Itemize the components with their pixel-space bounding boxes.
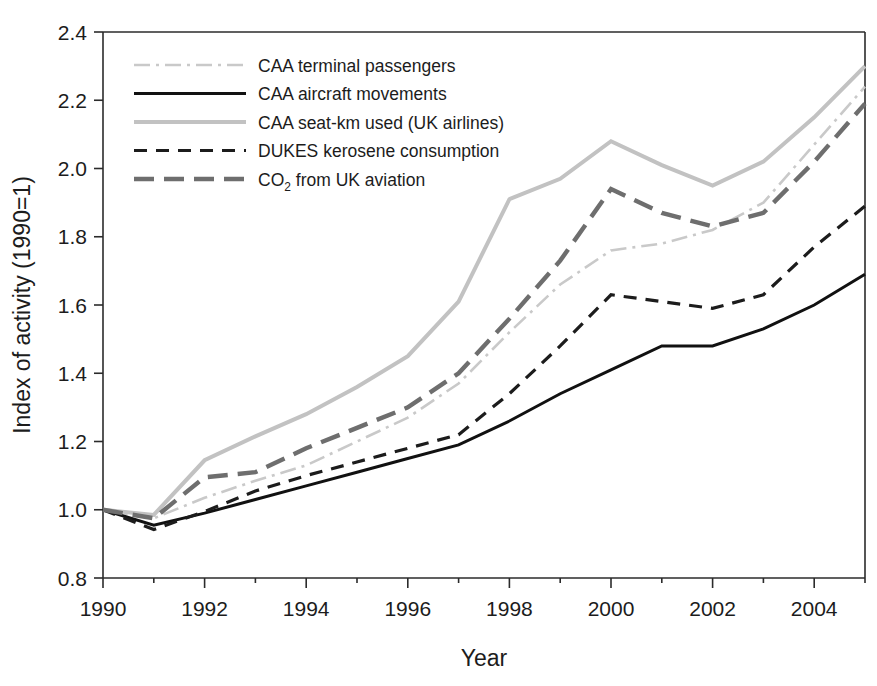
x-axis-ticks: 19901992199419961998200020022004	[80, 578, 838, 620]
chart-figure: 0.81.01.21.41.61.82.02.22.4 199019921994…	[0, 0, 877, 686]
chart-canvas: 0.81.01.21.41.61.82.02.22.4 199019921994…	[0, 0, 877, 686]
legend-label-4: CO2 from UK aviation	[258, 170, 425, 194]
y-tick-label: 1.8	[58, 225, 87, 248]
x-tick-label: 2002	[689, 597, 736, 620]
y-tick-label: 0.8	[58, 567, 87, 590]
series-line-1	[103, 274, 865, 525]
y-tick-label: 1.4	[58, 362, 88, 385]
series-line-2	[103, 66, 865, 515]
legend-label-0: CAA terminal passengers	[258, 56, 456, 76]
y-axis-label: Index of activity (1990=1)	[9, 176, 35, 434]
x-tick-label: 2000	[588, 597, 635, 620]
x-tick-label: 1992	[181, 597, 228, 620]
legend-label-suffix: from UK aviation	[291, 170, 425, 190]
x-tick-label: 1996	[384, 597, 431, 620]
x-tick-label: 1994	[283, 597, 330, 620]
x-tick-label: 2004	[791, 597, 838, 620]
y-tick-label: 2.0	[58, 157, 87, 180]
chart-legend: CAA terminal passengersCAA aircraft move…	[134, 56, 504, 194]
legend-label-3: DUKES kerosene consumption	[258, 141, 499, 161]
legend-label-1: CAA aircraft movements	[258, 84, 447, 104]
x-axis-label: Year	[461, 645, 508, 671]
data-series-group	[103, 66, 865, 529]
y-tick-label: 2.2	[58, 89, 87, 112]
y-tick-label: 1.6	[58, 294, 87, 317]
y-axis-ticks: 0.81.01.21.41.61.82.02.22.4	[58, 21, 103, 590]
x-tick-label: 1998	[486, 597, 533, 620]
y-tick-label: 2.4	[58, 21, 88, 44]
y-tick-label: 1.0	[58, 498, 87, 521]
y-tick-label: 1.2	[58, 430, 87, 453]
x-tick-label: 1990	[80, 597, 127, 620]
legend-label-2: CAA seat-km used (UK airlines)	[258, 113, 504, 133]
